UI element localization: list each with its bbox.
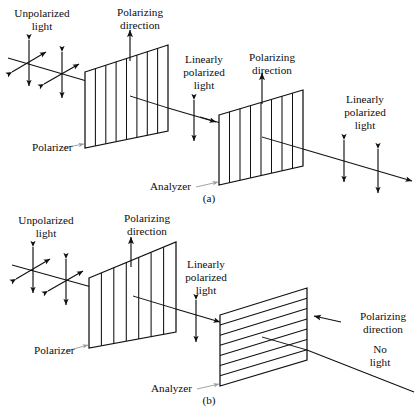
panel-b: Unpolarized light Polarizing direction P… <box>12 212 414 407</box>
analyzer-leader-a <box>196 182 218 187</box>
caption-a: (a) <box>203 192 216 205</box>
analyzer-leader-b <box>197 384 219 389</box>
label-polarizing-direction-a2-line1: Polarizing <box>249 51 295 63</box>
label-analyzer-b: Analyzer <box>151 382 192 394</box>
label-polarizer-b: Polarizer <box>34 344 75 356</box>
panel-a: Unpolarized light Polarizing direction P… <box>8 6 412 205</box>
analyzer-panel-a <box>219 90 303 185</box>
label-polarizing-direction-a1-line1: Polarizing <box>117 6 163 18</box>
label-polarizing-direction-a2-line2: direction <box>252 64 292 76</box>
unpolarized-starburst-2-b <box>48 259 83 305</box>
label-polarizing-direction-b2-line1: Polarizing <box>360 310 406 322</box>
label-linear-out-a-line1: Linearly <box>346 93 384 105</box>
unpolarized-ray-a <box>8 40 90 98</box>
figure-canvas: Unpolarized light Polarizing direction P… <box>0 0 418 418</box>
unpolarized-starburst-1-a <box>12 40 46 86</box>
polarizer-panel-b <box>89 242 176 348</box>
label-analyzer-a: Analyzer <box>150 180 191 192</box>
label-linear-out-a-line3: light <box>355 119 376 131</box>
label-linear-mid-a-line2: polarized <box>183 66 225 78</box>
label-polarizing-direction-b1-line2: direction <box>127 225 167 237</box>
label-linear-mid-b-line1: Linearly <box>187 258 225 270</box>
label-unpolarized-light-b-line1: Unpolarized <box>18 214 74 226</box>
caption-b: (b) <box>202 394 215 407</box>
label-linear-mid-a-line3: light <box>194 79 215 91</box>
label-unpolarized-light-a-line2: light <box>32 20 53 32</box>
polarization-figure: Unpolarized light Polarizing direction P… <box>0 0 418 418</box>
label-no-light-line1: No <box>373 343 387 355</box>
label-polarizer-a: Polarizer <box>32 141 73 153</box>
label-linear-out-a-line2: polarized <box>344 106 386 118</box>
label-linear-mid-b-line3: light <box>196 284 217 296</box>
label-polarizing-direction-b2-line2: direction <box>363 323 403 335</box>
unpolarized-starburst-1-b <box>16 247 50 293</box>
polarizer-panel-a <box>85 45 168 148</box>
label-unpolarized-light-b-line2: light <box>36 227 57 239</box>
label-polarizing-direction-b1-line1: Polarizing <box>124 212 170 224</box>
unpolarized-starburst-2-a <box>44 52 79 98</box>
label-no-light-line2: light <box>370 356 391 368</box>
label-linear-mid-a-line1: Linearly <box>185 53 223 65</box>
polarizing-direction-arrow-b2 <box>314 316 341 322</box>
label-linear-mid-b-line2: polarized <box>185 271 227 283</box>
label-polarizing-direction-a1-line2: direction <box>120 19 160 31</box>
unpolarized-ray-b <box>12 247 95 305</box>
label-unpolarized-light-a-line1: Unpolarized <box>14 7 70 19</box>
